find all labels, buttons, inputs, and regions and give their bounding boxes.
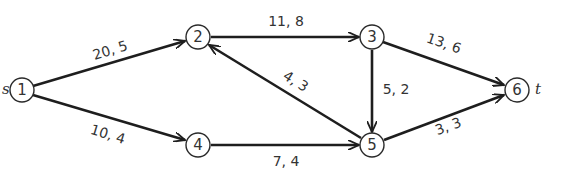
sink-label: t — [535, 80, 542, 98]
edge-label-1-4: 10, 4 — [89, 121, 128, 147]
node-4: 4 — [186, 133, 210, 157]
flow-network-diagram: 20, 5 10, 4 11, 8 13, 6 5, 2 4, 3 7, 4 3… — [0, 0, 562, 177]
node-1: 1 — [10, 78, 34, 102]
edge-label-2-3: 11, 8 — [268, 13, 304, 29]
edge-5-2 — [209, 45, 361, 138]
edge-label-3-6: 13, 6 — [425, 30, 464, 57]
source-label: s — [2, 80, 10, 98]
node-6: 6 — [505, 78, 529, 102]
edge-label-3-5: 5, 2 — [383, 81, 410, 97]
node-2: 2 — [186, 25, 210, 49]
edge-label-5-6: 3, 3 — [433, 114, 464, 138]
node-5: 5 — [360, 133, 384, 157]
node-label-6: 6 — [512, 81, 522, 99]
node-3: 3 — [360, 25, 384, 49]
node-label-3: 3 — [367, 28, 377, 46]
node-label-1: 1 — [17, 81, 27, 99]
node-label-2: 2 — [193, 28, 203, 46]
node-label-4: 4 — [193, 136, 203, 154]
node-label-5: 5 — [367, 136, 377, 154]
edge-label-4-5: 7, 4 — [273, 153, 300, 169]
